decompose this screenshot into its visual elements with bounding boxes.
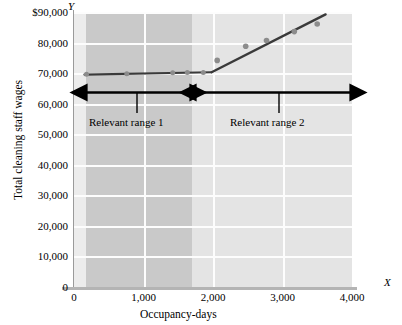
y-tick-label-90000: $90,000 [4, 7, 68, 18]
x-tick-label-0: 0 [44, 292, 104, 303]
x-tick-label-2000: 2,000 [183, 292, 243, 303]
x-axis-line [62, 287, 357, 290]
y-axis-line [73, 10, 74, 290]
gridline-x-3000 [283, 12, 285, 287]
x-axis-title: Occupancy-days [140, 308, 217, 320]
relevant-range-2-label: Relevant range 2 [230, 116, 305, 128]
plot-area [74, 12, 352, 287]
x-axis-letter: X [384, 276, 391, 288]
y-tick-label-10000: 10,000 [4, 251, 68, 262]
gridline-x-1000 [144, 12, 146, 287]
relevant-range-2-band [192, 12, 352, 287]
cost-behavior-chart: $90,000 80,000 70,000 60,000 50,000 40,0… [0, 0, 402, 325]
x-tick-label-3000: 3,000 [253, 292, 313, 303]
x-tick-label-4000: 4,000 [322, 292, 382, 303]
y-axis-letter: Y [68, 0, 74, 12]
x-tick-label-1000: 1,000 [114, 292, 174, 303]
relevant-range-1-band [86, 12, 192, 287]
relevant-range-1-label: Relevant range 1 [89, 116, 164, 128]
gridline-x-2000 [213, 12, 215, 287]
y-axis-title: Total cleaning staff wages [12, 40, 24, 240]
